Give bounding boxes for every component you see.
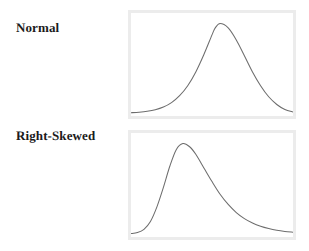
right-skewed-row-label: Right-Skewed bbox=[16, 129, 95, 143]
distribution-shapes-figure: Normal Right-Skewed bbox=[0, 0, 309, 251]
normal-distribution-panel bbox=[128, 10, 296, 119]
normal-distribution-curve bbox=[131, 24, 293, 113]
normal-row-label: Normal bbox=[16, 21, 59, 35]
right-skewed-distribution-panel bbox=[128, 130, 296, 240]
right-skewed-distribution-curve bbox=[131, 144, 293, 234]
right-skewed-distribution-plot bbox=[131, 133, 293, 237]
normal-distribution-plot bbox=[131, 13, 293, 116]
